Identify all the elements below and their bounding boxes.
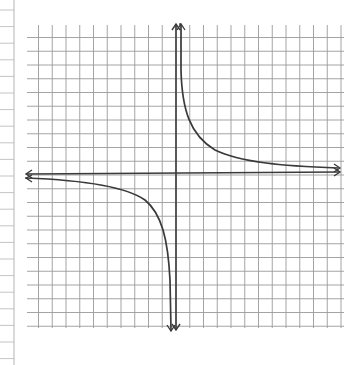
graph-paper-grid [27, 25, 344, 328]
hyperbola-graph [0, 0, 356, 365]
ruled-paper-margin [0, 0, 14, 365]
left-branch-curve [26, 178, 171, 330]
axes [26, 24, 340, 330]
x-axis [26, 172, 340, 174]
